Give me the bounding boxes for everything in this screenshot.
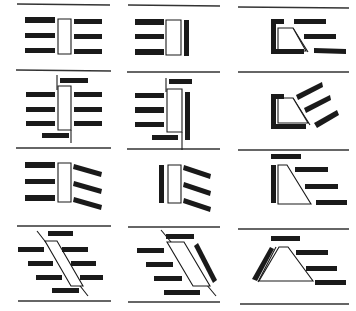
berth-bar [183,198,211,212]
berth-bar [25,48,55,53]
panel-r4c1: Diagonal pier, offset berths both sides [18,231,103,296]
panel-r2c1: Centre pier, staggered end berths [26,75,102,143]
pier-outline [168,165,181,203]
berth-bar [271,124,306,129]
berth-bar [164,290,200,295]
berth-bar [74,34,102,39]
berth-bar [271,19,284,24]
berth-bar [305,184,338,189]
berth-bar [28,261,53,266]
diagram-canvas: Centre pier, perpendicular berths both s… [0,0,356,311]
berth-bar [316,200,347,205]
berth-bar [271,154,301,159]
berth-bar [166,234,194,239]
panel-r2c2: Quay pier with staggered end berths and … [135,78,192,146]
berth-bar [48,231,73,236]
berth-bar [26,107,55,112]
berth-bar [135,122,164,127]
berth-bar [296,250,328,255]
berth-bar [74,107,102,112]
berth-bar [62,247,88,252]
separator-line [16,70,111,71]
berth-bar [25,195,55,201]
berth-bar [135,107,164,113]
panel-r3c1: Centre pier, perpendicular one side, ang… [25,162,102,210]
panel-r2c3: Corner basin, angled (herringbone) berth… [271,82,339,129]
berth-bar [74,121,102,126]
berth-layout-diagram: Centre pier, perpendicular berths both s… [0,0,356,311]
pier-outline [167,89,182,132]
berth-bar [295,167,328,172]
pier-outline [278,28,306,51]
pier-outline [58,86,71,130]
berth-bar [71,261,96,266]
berth-bar [184,20,189,56]
berth-bar [135,49,164,55]
berth-bar [185,92,190,140]
pier-outline [58,19,71,54]
berth-bar [137,248,164,253]
panel-r1c3: Corner basin, trapezoid slip, parallel b… [271,19,346,54]
panel-r4c3: Trapezoid basin with sloped wall, steppe… [252,236,346,285]
panel-r4c2: Diagonal pier with angled wall, offset b… [137,230,217,296]
berth-bar [73,164,102,177]
berth-bar [296,82,323,100]
separator-line [128,5,220,6]
berth-bar [80,275,103,280]
berth-bar [26,92,55,97]
berth-bar [271,49,304,54]
panel-r1c1: Centre pier, perpendicular berths both s… [25,17,102,54]
berth-bar [25,17,55,23]
berth-bar [74,19,102,24]
berth-bar [135,34,164,39]
layout-panels: Centre pier, perpendicular berths both s… [18,17,347,296]
berth-bar [294,19,326,24]
berth-bar [271,94,276,128]
berth-bar [74,49,102,54]
separator-line [17,4,110,5]
berth-bar [25,179,55,184]
berth-bar [74,92,102,97]
separator-line [238,7,349,8]
berth-bar [169,79,192,84]
berth-bar [60,78,88,83]
berth-bar [315,280,346,285]
berth-bar [146,262,173,267]
berth-bar [73,181,102,194]
pier-outline [278,98,308,123]
berth-bar [154,276,182,281]
berth-bar [271,94,284,99]
berth-bar [73,197,102,210]
berth-bar [304,34,336,39]
pier-outline [58,163,71,202]
berth-bar [159,165,164,203]
berth-bar [306,266,337,271]
panel-r3c3: Trapezoid basin, stepped parallel berths [271,154,347,205]
berth-bar [25,33,55,38]
berth-bar [135,93,164,98]
berth-bar [183,182,211,196]
berth-bar [314,110,339,128]
berth-bar [18,247,44,252]
berth-bar [271,165,276,203]
berth-bar [36,275,62,280]
pier-outline [166,20,181,55]
berth-bar [152,135,178,140]
berth-bar [271,19,276,54]
berth-bar [271,236,300,241]
panel-r3c2: Wall-backed pier, angled berths one side [159,146,211,212]
berth-bar [42,133,69,138]
berth-bar [183,165,211,179]
berth-bar [135,19,164,25]
panel-r1c2: Quay pier, perpendicular berths one side… [135,19,189,56]
berth-bar [314,48,346,54]
berth-bar [52,288,79,293]
berth-bar [25,162,55,168]
berth-bar [304,95,331,113]
berth-bar [26,121,55,126]
